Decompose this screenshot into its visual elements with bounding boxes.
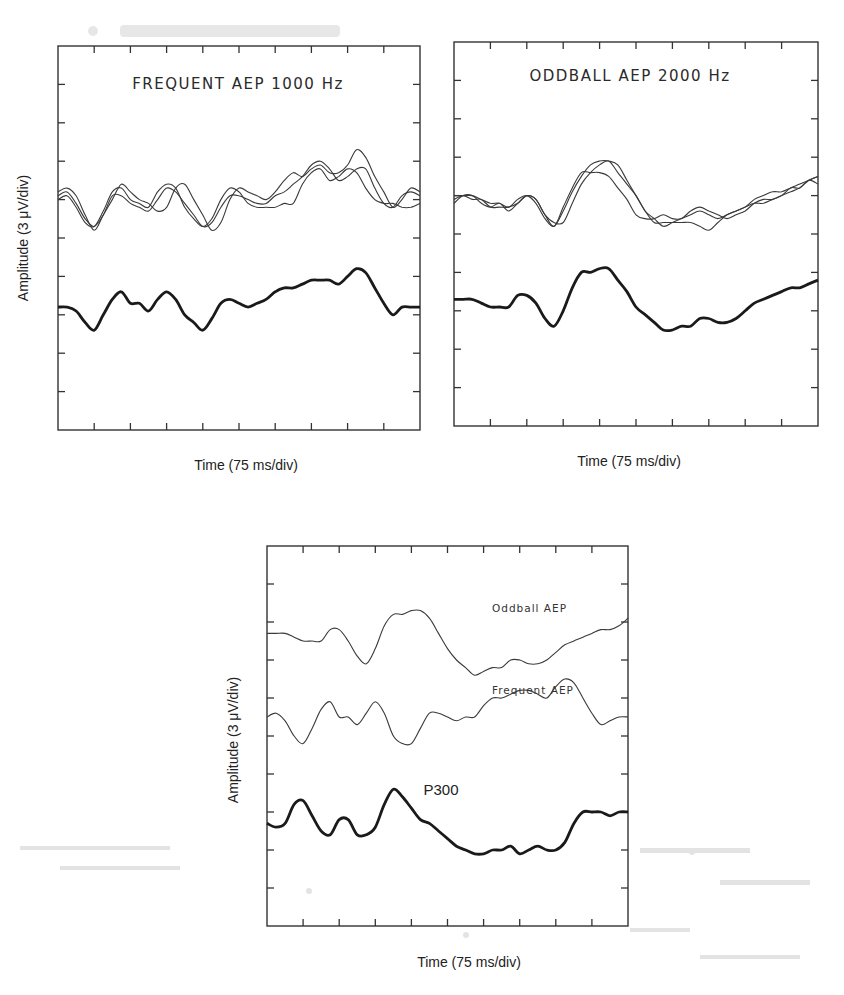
frequent-aep-label: Frequent AEP [492,684,574,696]
trace-oddball-aep [267,610,628,675]
y-axis-label: Amplitude (3 μV/div) [15,175,31,301]
panel-frequent-aep: FREQUENT AEP 1000 Hz Time (75 ms/div) Am… [15,46,420,473]
waveform-traces [58,149,420,330]
scan-artifacts [20,25,810,959]
trace-oddball-trial-2 [454,171,818,226]
trace-p300-oddball-frequent [267,789,628,854]
waveform-traces [454,161,818,331]
axis-ticks [58,46,420,430]
trace-frequent-trial-3 [58,169,420,228]
axis-ticks [454,42,818,426]
x-axis-label: Time (75 ms/div) [194,457,298,473]
oddball-aep-label: Oddball AEP [492,602,567,614]
panel-title: ODDBALL AEP 2000 Hz [529,67,730,85]
waveform-traces [267,610,628,854]
axis-ticks [267,546,628,926]
x-axis-label: Time (75 ms/div) [417,954,521,970]
plot-frame [454,42,818,426]
y-axis-label: Amplitude (3 μV/div) [225,677,241,803]
trace-oddball-average [454,268,818,331]
plot-frame [267,546,628,926]
p300-annotation: P300 [423,781,458,798]
plot-frame [58,46,420,430]
trace-frequent-trial-2 [58,161,420,227]
panel-oddball-aep: ODDBALL AEP 2000 Hz Time (75 ms/div) [454,42,818,469]
aep-figure: FREQUENT AEP 1000 Hz Time (75 ms/div) Am… [0,0,844,995]
trace-frequent-trial-1 [58,149,420,230]
trace-oddball-trial-1 [454,161,818,227]
x-axis-label: Time (75 ms/div) [577,453,681,469]
panel-p300-difference: Oddball AEP Frequent AEP P300 Time (75 m… [225,546,628,970]
panel-title: FREQUENT AEP 1000 Hz [132,75,344,93]
trace-frequent-average [58,269,420,331]
